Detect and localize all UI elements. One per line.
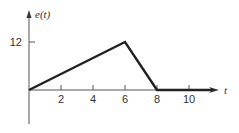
ticks: 24681012 (10, 36, 195, 105)
axes (27, 10, 220, 124)
chart: 24681012 e(t) t (0, 0, 239, 133)
y-tick-label: 12 (10, 36, 22, 48)
x-tick-label: 6 (122, 93, 128, 105)
x-tick-label: 4 (90, 93, 96, 105)
y-axis-label: e(t) (35, 8, 51, 21)
series-line-e-t (29, 42, 213, 90)
x-tick-label: 8 (154, 93, 160, 105)
x-tick-label: 2 (58, 93, 64, 105)
y-axis-arrow-icon (27, 10, 32, 18)
x-tick-label: 10 (183, 93, 195, 105)
x-axis-label: t (224, 84, 228, 96)
